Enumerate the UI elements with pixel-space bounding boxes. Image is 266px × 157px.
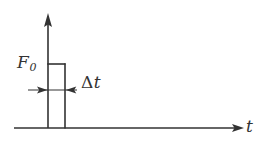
force-pulse-figure: F0 Δt t [0, 0, 266, 157]
duration-label: Δt [81, 72, 101, 92]
amplitude-label: F0 [17, 52, 37, 74]
delta-symbol: Δ [81, 72, 93, 92]
duration-variable: t [94, 72, 101, 92]
amplitude-subscript: 0 [30, 61, 37, 74]
figure-canvas [0, 0, 266, 157]
amplitude-symbol: F [17, 52, 29, 72]
time-axis-label: t [246, 116, 253, 136]
